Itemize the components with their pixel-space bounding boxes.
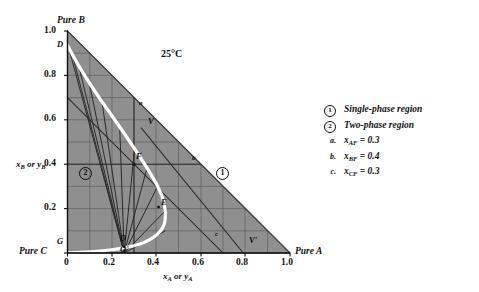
legend-key-c: c. [310, 167, 344, 176]
point-label-V: V [148, 117, 154, 126]
legend-value-a: 0.3 [368, 135, 380, 145]
point-label-b: b [192, 155, 196, 162]
region-badge-two-phase-text: 2 [79, 167, 92, 180]
legend-sub-a: AF [349, 139, 358, 146]
point-label-c: c [215, 231, 218, 238]
y-tick-label-0.8: 0.8 [44, 70, 56, 80]
x-tick-label-0.8: 0.8 [236, 258, 248, 268]
region-badge-single-phase: 1 [216, 167, 229, 180]
legend-sub-b: BF [349, 155, 358, 162]
point-label-E: E [161, 198, 167, 207]
legend-key-a: a. [310, 136, 344, 145]
marker-E [157, 206, 160, 209]
marker-F [132, 163, 135, 166]
ternary-phase-diagram-figure: Pure B Pure C Pure A 1.0 0.8 0.6 0.4 0.2… [0, 0, 479, 292]
legend-text-two-phase: Two-phase region [344, 120, 414, 130]
vertex-label-pure-c: Pure C [19, 247, 47, 257]
vertex-label-pure-b: Pure B [57, 16, 85, 26]
x-tick-label-0: 0 [64, 258, 69, 268]
y-axis-title: xB or yB [16, 160, 46, 169]
legend-text-c: xCF = 0.3 [344, 166, 379, 176]
temperature-label: 25°C [161, 49, 182, 59]
legend-key-two-phase: 2 [310, 121, 344, 133]
point-label-D: D [57, 40, 63, 49]
x-axis-title: xA or yA [163, 272, 193, 281]
legend-key-b: b. [310, 152, 344, 161]
x-tick-label-0.2: 0.2 [103, 258, 115, 268]
point-label-V-prime: V' [249, 236, 257, 245]
x-tick-label-1.0: 1.0 [281, 258, 293, 268]
y-tick-label-0.6: 0.6 [44, 114, 56, 124]
point-label-G: G [57, 237, 63, 246]
legend-key-single-phase: 1 [310, 105, 344, 117]
legend-text-single-phase: Single-phase region [344, 104, 422, 114]
legend-value-c: 0.3 [368, 166, 380, 176]
legend-circle-1: 1 [324, 105, 336, 117]
point-label-F: F [136, 152, 142, 161]
vertex-label-pure-a: Pure A [295, 247, 322, 257]
legend-row-single-phase: 1 Single-phase region [310, 104, 475, 117]
x-tick-label-0.6: 0.6 [192, 258, 204, 268]
x-tick-label-0.4: 0.4 [147, 258, 159, 268]
legend-value-b: 0.4 [368, 151, 380, 161]
point-label-O: O [120, 234, 126, 243]
legend-row-b: b. xBF = 0.4 [310, 151, 475, 164]
region-badge-two-phase: 2 [79, 167, 92, 180]
legend-sub-c: CF [349, 170, 358, 177]
legend-row-two-phase: 2 Two-phase region [310, 120, 475, 133]
legend-circle-2: 2 [324, 121, 336, 133]
point-label-O-prime: O' [120, 245, 129, 254]
point-label-a: a [139, 100, 143, 107]
region-badge-single-phase-text: 1 [216, 167, 229, 180]
y-tick-label-0.2: 0.2 [44, 203, 56, 213]
legend: 1 Single-phase region 2 Two-phase region… [310, 104, 475, 182]
legend-row-c: c. xCF = 0.3 [310, 166, 475, 179]
legend-text-a: xAF = 0.3 [344, 135, 379, 145]
legend-text-b: xBF = 0.4 [344, 151, 379, 161]
legend-row-a: a. xAF = 0.3 [310, 135, 475, 148]
y-tick-label-1.0: 1.0 [44, 26, 56, 36]
